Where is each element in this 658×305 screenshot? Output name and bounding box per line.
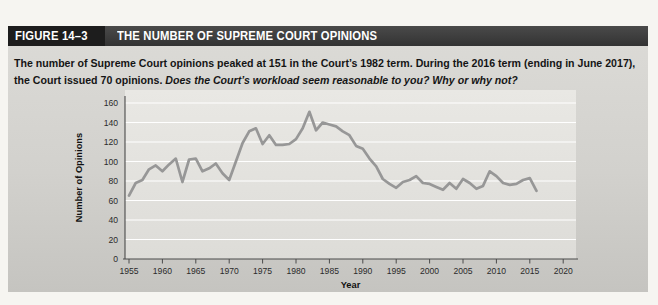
figure-title-text: THE NUMBER OF SUPREME COURT OPINIONS [117, 26, 377, 46]
x-tick-marks [129, 259, 563, 264]
svg-text:1985: 1985 [320, 266, 339, 276]
svg-text:0: 0 [113, 254, 118, 264]
y-tick-labels: 020406080100120140160 [104, 98, 119, 264]
opinions-line-chart: 0204060801001201401601955196019651970197… [8, 90, 648, 292]
svg-text:60: 60 [108, 196, 118, 206]
x-tick-labels: 1955196019651970197519801985199019952000… [119, 266, 573, 276]
svg-text:2015: 2015 [520, 266, 539, 276]
svg-text:20: 20 [108, 235, 118, 245]
x-axis-title: Year [341, 280, 361, 290]
svg-text:100: 100 [104, 157, 119, 167]
svg-text:2010: 2010 [487, 266, 506, 276]
y-axis-title: Number of Opinions [74, 133, 84, 222]
svg-text:2000: 2000 [420, 266, 439, 276]
figure-title-bar: THE NUMBER OF SUPREME COURT OPINIONS [105, 26, 648, 46]
svg-text:1965: 1965 [186, 266, 205, 276]
svg-text:160: 160 [104, 98, 119, 108]
caption-question: Does the Court’s workload seem reasonabl… [165, 74, 517, 86]
svg-text:120: 120 [104, 137, 119, 147]
svg-text:140: 140 [104, 118, 119, 128]
svg-text:1995: 1995 [387, 266, 406, 276]
svg-text:1990: 1990 [353, 266, 372, 276]
svg-text:2005: 2005 [453, 266, 472, 276]
figure-header: FIGURE 14–3 THE NUMBER OF SUPREME COURT … [8, 26, 648, 46]
textbook-page: FIGURE 14–3 THE NUMBER OF SUPREME COURT … [0, 0, 658, 305]
figure-number-text: FIGURE 14–3 [15, 26, 88, 46]
svg-text:1955: 1955 [119, 266, 138, 276]
plot-area [125, 90, 576, 259]
svg-text:1970: 1970 [220, 266, 239, 276]
svg-text:1980: 1980 [286, 266, 305, 276]
svg-text:1975: 1975 [253, 266, 272, 276]
figure-box: FIGURE 14–3 THE NUMBER OF SUPREME COURT … [8, 26, 648, 292]
svg-text:1960: 1960 [153, 266, 172, 276]
figure-number-tab: FIGURE 14–3 [8, 26, 105, 46]
figure-caption: The number of Supreme Court opinions pea… [8, 46, 648, 89]
svg-text:40: 40 [108, 215, 118, 225]
svg-text:80: 80 [108, 176, 118, 186]
svg-text:2020: 2020 [554, 266, 573, 276]
